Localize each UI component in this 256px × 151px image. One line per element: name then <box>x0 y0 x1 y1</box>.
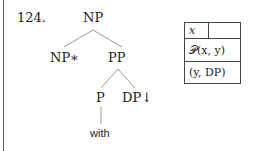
box-row-variable: x <box>185 23 240 39</box>
node-p: P <box>96 90 105 105</box>
semantic-feature-box: x 𝒫(x, y) (y, DP) <box>184 22 241 84</box>
node-root-np: NP <box>83 10 103 25</box>
node-pp: PP <box>108 50 126 65</box>
node-dp-subst: DP↓ <box>122 90 152 105</box>
node-np-foot: NP∗ <box>50 50 79 65</box>
box-row-predicate: 𝒫(x, y) <box>185 39 240 62</box>
variable-x: x <box>189 24 195 37</box>
predicate-formula: 𝒫(x, y) <box>189 44 225 57</box>
row-divider <box>208 23 209 38</box>
lexical-anchor: with <box>90 127 110 139</box>
box-row-argument: (y, DP) <box>185 62 240 83</box>
argument-pair: (y, DP) <box>189 66 226 79</box>
